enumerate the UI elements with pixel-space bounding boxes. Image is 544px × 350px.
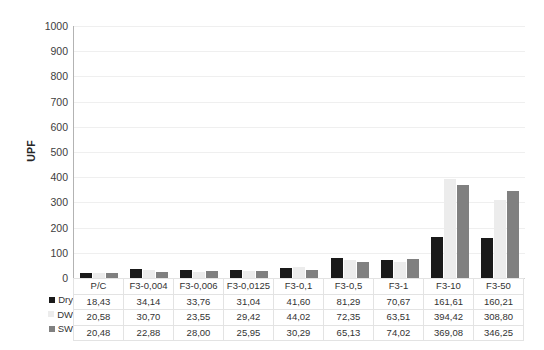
bar-dw[interactable] <box>444 179 456 278</box>
table-cell: 65,13 <box>324 325 374 341</box>
bar-dw[interactable] <box>344 260 356 278</box>
table-cell: 41,60 <box>274 294 324 310</box>
bar-sw[interactable] <box>306 270 318 278</box>
legend-column: Dry DW SW <box>35 278 73 336</box>
table-row: 18,4334,1433,7631,0441,6081,2970,67161,6… <box>74 294 524 310</box>
bar-dry[interactable] <box>230 270 242 278</box>
bar-sw[interactable] <box>357 262 369 278</box>
bar-group <box>425 26 475 278</box>
table-cell: 308,80 <box>474 310 524 326</box>
dw-swatch-icon <box>48 311 54 317</box>
table-cell: 30,29 <box>274 325 324 341</box>
bar-dw[interactable] <box>293 267 305 278</box>
table-cell: 34,14 <box>124 294 174 310</box>
bar-dry[interactable] <box>331 258 343 278</box>
bar-sw[interactable] <box>457 185 469 278</box>
bar-dry[interactable] <box>280 268 292 278</box>
table-cell: F3-0,006 <box>174 279 224 295</box>
y-tick-label: 500 <box>50 146 68 158</box>
table-cell: 394,42 <box>424 310 474 326</box>
y-tick-label: 900 <box>50 45 68 57</box>
table-cell: 369,08 <box>424 325 474 341</box>
table-cell: 44,02 <box>274 310 324 326</box>
table-cell: 18,43 <box>74 294 124 310</box>
y-tick-label: 200 <box>50 222 68 234</box>
table-cell: F3-1 <box>374 279 424 295</box>
chart-container: UPF 10009008007006005004003002001000 Dry… <box>0 0 544 350</box>
legend-label-dw: DW <box>57 309 73 320</box>
table-cell: 70,67 <box>374 294 424 310</box>
table-cell: 31,04 <box>224 294 274 310</box>
table-cell: F3-50 <box>474 279 524 295</box>
table-cell: F3-0,004 <box>124 279 174 295</box>
bar-dry[interactable] <box>130 269 142 278</box>
bar-groups <box>74 26 525 278</box>
table-cell: 23,55 <box>174 310 224 326</box>
table-row: 20,5830,7023,5529,4244,0272,3563,51394,4… <box>74 310 524 326</box>
bar-group <box>174 26 224 278</box>
bar-group <box>124 26 174 278</box>
legend-item-dry[interactable]: Dry <box>35 293 73 308</box>
legend-label-dry: Dry <box>58 294 73 305</box>
y-tick-label: 700 <box>50 96 68 108</box>
bar-group <box>224 26 274 278</box>
bar-group <box>475 26 525 278</box>
y-tick-label: 1000 <box>45 20 68 32</box>
table-cell: 346,25 <box>474 325 524 341</box>
bar-group <box>274 26 324 278</box>
bar-dry[interactable] <box>381 260 393 278</box>
table-cell: 72,35 <box>324 310 374 326</box>
y-tick-label: 600 <box>50 121 68 133</box>
table-cell: F3-10 <box>424 279 474 295</box>
table-cell: 28,00 <box>174 325 224 341</box>
y-tick-label: 800 <box>50 70 68 82</box>
table-cell: F3-0,0125 <box>224 279 274 295</box>
y-axis-tick-labels: 10009008007006005004003002001000 <box>26 20 68 284</box>
table-cell: 30,70 <box>124 310 174 326</box>
bar-dry[interactable] <box>481 238 493 278</box>
bar-group <box>74 26 124 278</box>
table-cell: 63,51 <box>374 310 424 326</box>
table-cell: F3-0,5 <box>324 279 374 295</box>
bar-dw[interactable] <box>394 262 406 278</box>
bar-dw[interactable] <box>494 200 506 278</box>
legend-header-spacer <box>35 278 73 293</box>
table-cell: 160,21 <box>474 294 524 310</box>
table-cell: 25,95 <box>224 325 274 341</box>
plot-area <box>73 26 525 278</box>
y-tick-label: 100 <box>50 247 68 259</box>
table-cell: 33,76 <box>174 294 224 310</box>
bar-dry[interactable] <box>180 270 192 279</box>
table-cell: 20,48 <box>74 325 124 341</box>
table-cell: 29,42 <box>224 310 274 326</box>
bar-dw[interactable] <box>143 270 155 278</box>
sw-swatch-icon <box>49 326 55 332</box>
table-cell: F3-0,1 <box>274 279 324 295</box>
dry-swatch-icon <box>49 297 55 303</box>
table-cell: 161,61 <box>424 294 474 310</box>
bar-dry[interactable] <box>431 237 443 278</box>
bar-dw[interactable] <box>243 271 255 278</box>
table-cell: P/C <box>74 279 124 295</box>
y-tick-label: 400 <box>50 171 68 183</box>
bar-group <box>325 26 375 278</box>
data-table: P/CF3-0,004F3-0,006F3-0,0125F3-0,1F3-0,5… <box>73 278 524 341</box>
legend-label-sw: SW <box>58 323 73 334</box>
legend-item-sw[interactable]: SW <box>35 322 73 337</box>
table-header-row: P/CF3-0,004F3-0,006F3-0,0125F3-0,1F3-0,5… <box>74 279 524 295</box>
y-tick-label: 300 <box>50 196 68 208</box>
bar-sw[interactable] <box>407 259 419 278</box>
data-table-body: P/CF3-0,004F3-0,006F3-0,0125F3-0,1F3-0,5… <box>74 279 524 341</box>
bar-sw[interactable] <box>206 271 218 278</box>
legend-item-dw[interactable]: DW <box>35 307 73 322</box>
table-cell: 74,02 <box>374 325 424 341</box>
table-cell: 22,88 <box>124 325 174 341</box>
table-cell: 81,29 <box>324 294 374 310</box>
bar-group <box>375 26 425 278</box>
table-row: 20,4822,8828,0025,9530,2965,1374,02369,0… <box>74 325 524 341</box>
table-cell: 20,58 <box>74 310 124 326</box>
bar-sw[interactable] <box>507 191 519 278</box>
